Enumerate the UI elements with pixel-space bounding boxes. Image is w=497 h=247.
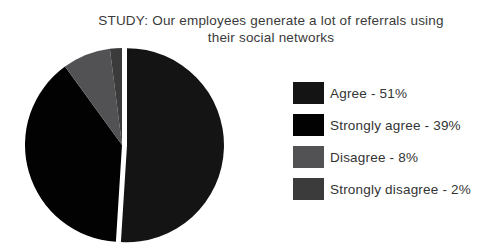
legend-swatch-disagree xyxy=(293,146,324,168)
legend-label-strongly-disagree: Strongly disagree - 2% xyxy=(330,182,471,197)
chart-title-line2: their social networks xyxy=(41,30,497,47)
legend-label-disagree: Disagree - 8% xyxy=(330,150,418,165)
legend: Agree - 51% Strongly agree - 39% Disagre… xyxy=(293,82,471,210)
legend-item-strongly-agree: Strongly agree - 39% xyxy=(293,114,471,136)
legend-swatch-strongly-disagree xyxy=(293,178,324,200)
legend-label-strongly-agree: Strongly agree - 39% xyxy=(330,118,461,133)
chart-title-line1: STUDY: Our employees generate a lot of r… xyxy=(41,13,497,30)
legend-swatch-strongly-agree xyxy=(293,114,324,136)
legend-swatch-agree xyxy=(293,82,324,104)
pie-slice-agree xyxy=(121,48,224,242)
chart-title: STUDY: Our employees generate a lot of r… xyxy=(41,13,497,46)
legend-label-agree: Agree - 51% xyxy=(330,86,407,101)
legend-item-strongly-disagree: Strongly disagree - 2% xyxy=(293,178,471,200)
legend-item-disagree: Disagree - 8% xyxy=(293,146,471,168)
pie-chart xyxy=(20,45,232,247)
legend-item-agree: Agree - 51% xyxy=(293,82,471,104)
